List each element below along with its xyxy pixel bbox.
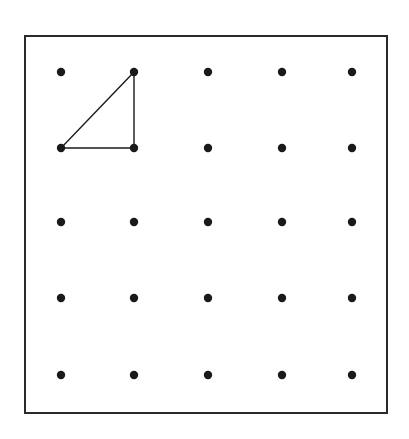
grid-dot-r3-c4 xyxy=(348,294,356,302)
grid-dot-r4-c3 xyxy=(278,371,286,379)
grid-dot-r2-c0 xyxy=(57,218,65,226)
grid-dot-r3-c1 xyxy=(130,294,138,302)
grid-dot-r0-c1 xyxy=(130,68,138,76)
grid-dot-r1-c0 xyxy=(57,144,65,152)
right-triangle-shape xyxy=(61,72,134,148)
grid-dot-r2-c2 xyxy=(204,218,212,226)
grid-dot-r4-c4 xyxy=(348,371,356,379)
grid-dot-r3-c2 xyxy=(204,294,212,302)
grid-dot-r0-c0 xyxy=(57,68,65,76)
geoboard-diagram xyxy=(0,0,409,439)
grid-dot-r1-c1 xyxy=(130,144,138,152)
grid-dot-r3-c3 xyxy=(278,294,286,302)
grid-dot-r4-c0 xyxy=(57,371,65,379)
dot-grid xyxy=(57,68,356,379)
grid-dot-r3-c0 xyxy=(57,294,65,302)
grid-dot-r1-c4 xyxy=(348,144,356,152)
grid-dot-r0-c2 xyxy=(204,68,212,76)
grid-dot-r4-c2 xyxy=(204,371,212,379)
shapes-layer xyxy=(61,72,134,148)
grid-dot-r4-c1 xyxy=(130,371,138,379)
grid-dot-r1-c3 xyxy=(278,144,286,152)
grid-dot-r2-c1 xyxy=(130,218,138,226)
grid-dot-r0-c4 xyxy=(348,68,356,76)
grid-dot-r1-c2 xyxy=(204,144,212,152)
grid-dot-r0-c3 xyxy=(278,68,286,76)
grid-dot-r2-c3 xyxy=(278,218,286,226)
grid-dot-r2-c4 xyxy=(348,218,356,226)
